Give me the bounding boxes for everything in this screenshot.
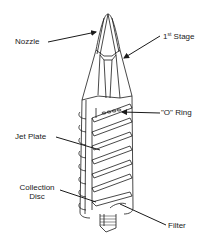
- o-ring-label: "O" Ring: [161, 108, 192, 117]
- first-stage-label: 1st Stage: [163, 30, 194, 41]
- jet-plate-label: Jet Plate: [15, 132, 46, 141]
- first-stage-suffix: Stage: [171, 32, 194, 41]
- jet-plate-leader: [56, 137, 100, 150]
- collection-disc-label-line1: Collection: [14, 183, 60, 192]
- nozzle-label-text: Nozzle: [15, 37, 39, 46]
- collection-disc-leader: [60, 190, 96, 202]
- filter-label: Filter: [168, 221, 186, 230]
- collection-disc-label-line2: Disc: [14, 192, 60, 201]
- first-stage-leader: [124, 36, 160, 58]
- o-ring-label-text: "O" Ring: [161, 108, 192, 117]
- jet-plate-label-text: Jet Plate: [15, 132, 46, 141]
- leader-lines: [48, 32, 166, 225]
- nozzle-leader: [48, 32, 96, 42]
- filter-leader: [120, 204, 166, 225]
- nozzle-label: Nozzle: [15, 37, 39, 46]
- o-ring-leader: [122, 112, 160, 113]
- collection-disc-label: Collection Disc: [14, 183, 60, 201]
- filter-label-text: Filter: [168, 221, 186, 230]
